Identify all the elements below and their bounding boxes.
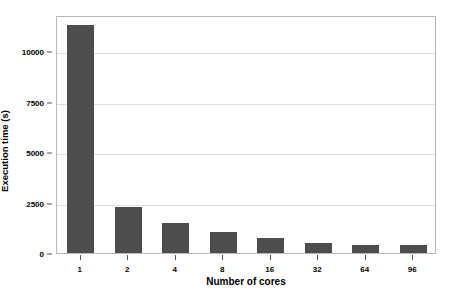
x-tick-label: 1 bbox=[78, 265, 82, 274]
x-axis-title: Number of cores bbox=[206, 276, 285, 287]
bar bbox=[210, 232, 237, 253]
x-tick-mark bbox=[412, 255, 413, 260]
bar-series bbox=[57, 17, 435, 253]
x-axis: 124816326496 Number of cores bbox=[56, 254, 436, 297]
y-tick-mark bbox=[47, 203, 52, 204]
y-tick-label: 0 bbox=[40, 250, 44, 259]
y-axis: Execution time (s) 025005000750010000 bbox=[0, 16, 56, 254]
y-tick-mark bbox=[47, 153, 52, 154]
y-tick-mark bbox=[47, 52, 52, 53]
bar-chart: Execution time (s) 025005000750010000 12… bbox=[0, 0, 452, 297]
x-tick-label: 96 bbox=[408, 265, 417, 274]
y-tick-label: 10000 bbox=[22, 48, 44, 57]
bar bbox=[352, 245, 379, 253]
x-tick-mark bbox=[365, 255, 366, 260]
x-tick-mark bbox=[175, 255, 176, 260]
bar bbox=[162, 223, 189, 253]
x-tick-mark bbox=[270, 255, 271, 260]
x-tick-label: 32 bbox=[313, 265, 322, 274]
x-tick-label: 4 bbox=[173, 265, 177, 274]
x-tick-label: 8 bbox=[220, 265, 224, 274]
x-tick-mark bbox=[317, 255, 318, 260]
bar bbox=[400, 245, 427, 253]
plot-area bbox=[56, 16, 436, 254]
y-tick-mark bbox=[47, 102, 52, 103]
y-tick-label: 5000 bbox=[26, 149, 44, 158]
x-tick-label: 2 bbox=[125, 265, 129, 274]
x-tick-label: 16 bbox=[265, 265, 274, 274]
x-tick-mark bbox=[222, 255, 223, 260]
y-tick-label: 2500 bbox=[26, 199, 44, 208]
x-tick-label: 64 bbox=[360, 265, 369, 274]
bar bbox=[67, 25, 94, 253]
bar bbox=[115, 207, 142, 253]
y-axis-title: Execution time (s) bbox=[0, 110, 10, 192]
x-tick-mark bbox=[127, 255, 128, 260]
bar bbox=[257, 238, 284, 253]
y-tick-mark bbox=[47, 254, 52, 255]
bar bbox=[305, 243, 332, 253]
x-tick-mark bbox=[80, 255, 81, 260]
y-tick-label: 7500 bbox=[26, 98, 44, 107]
